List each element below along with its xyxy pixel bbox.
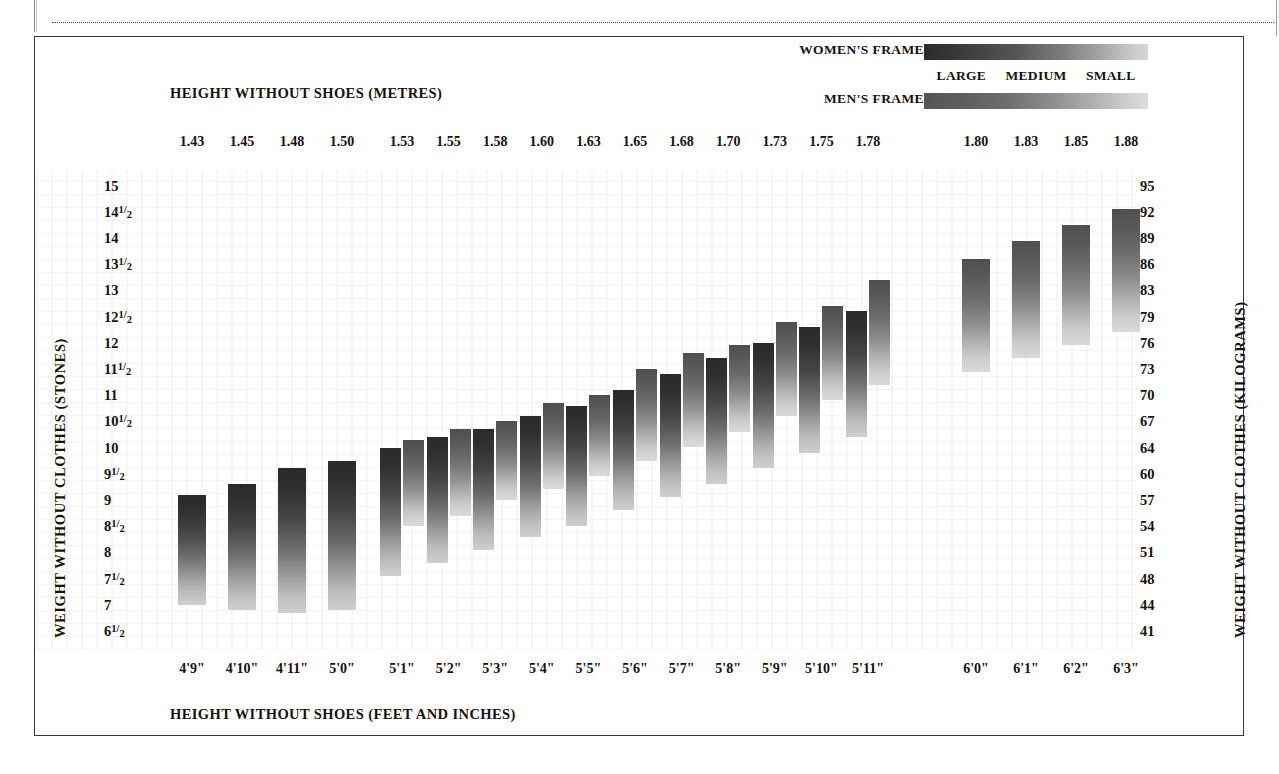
legend-swatch-women — [924, 44, 1148, 60]
legend-scale-large: LARGE — [924, 68, 999, 84]
legend-scale-medium: MEDIUM — [999, 68, 1074, 84]
chart-page: WOMEN'S FRAME LARGE MEDIUM SMALL MEN'S F… — [0, 0, 1279, 774]
axis-title-bottom: HEIGHT WITHOUT SHOES (FEET AND INCHES) — [170, 706, 516, 723]
page-margin-rule-right — [1276, 0, 1277, 36]
legend-scale: LARGE MEDIUM SMALL — [924, 66, 1148, 86]
axis-title-right: WEIGHT WITHOUT CLOTHES (KILOGRAMS) — [1232, 301, 1249, 638]
page-margin-rule-left-inner — [36, 0, 37, 32]
axis-title-left: WEIGHT WITHOUT CLOTHES (STONES) — [52, 338, 69, 638]
legend-row-women: WOMEN'S FRAME — [728, 44, 1148, 61]
dotted-separator — [52, 22, 1274, 23]
legend-row-men: MEN'S FRAME — [728, 93, 1148, 110]
legend-label-women: WOMEN'S FRAME — [799, 42, 924, 58]
page-margin-rule-left — [34, 0, 35, 32]
legend-swatch-men — [924, 93, 1148, 109]
legend: WOMEN'S FRAME LARGE MEDIUM SMALL MEN'S F… — [728, 44, 1148, 110]
axis-title-top: HEIGHT WITHOUT SHOES (METRES) — [170, 85, 442, 102]
legend-scale-small: SMALL — [1073, 68, 1148, 84]
chart-frame — [34, 36, 1244, 736]
legend-label-men: MEN'S FRAME — [824, 91, 924, 107]
